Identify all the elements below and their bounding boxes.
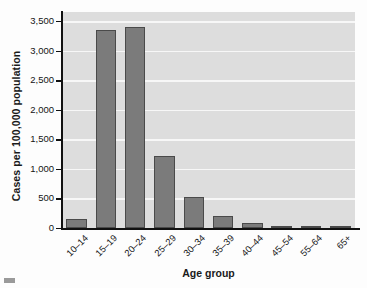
y-tick-label: 0 [10, 222, 54, 233]
y-tick-mark [56, 169, 61, 170]
corner-artifact [4, 278, 15, 283]
bar-chart-figure: Cases per 100,000 population 05001,0001,… [0, 0, 367, 288]
bar-25-29 [154, 156, 175, 228]
y-tick-mark [56, 139, 61, 140]
y-tick-label: 500 [10, 192, 54, 203]
y-tick-label: 3,500 [10, 15, 54, 26]
y-tick-mark [56, 198, 61, 199]
x-axis-title: Age group [62, 267, 355, 279]
plot-area [62, 12, 355, 229]
y-tick-label: 2,000 [10, 104, 54, 115]
y-tick-mark [56, 51, 61, 52]
y-tick-mark [56, 80, 61, 81]
x-axis-line [61, 228, 360, 230]
bar-20-24 [125, 27, 146, 228]
y-tick-label: 2,500 [10, 74, 54, 85]
gridline [62, 21, 355, 23]
plot-inner [62, 12, 355, 229]
y-axis-line [61, 11, 63, 229]
y-tick-label: 3,000 [10, 45, 54, 56]
y-tick-label: 1,000 [10, 163, 54, 174]
y-tick-mark [56, 228, 61, 229]
bar-10-14 [66, 219, 87, 228]
y-tick-label: 1,500 [10, 133, 54, 144]
bar-35-39 [213, 216, 234, 228]
y-tick-mark [56, 21, 61, 22]
bar-15-19 [96, 30, 117, 228]
bar-30-34 [184, 197, 205, 228]
y-tick-mark [56, 110, 61, 111]
